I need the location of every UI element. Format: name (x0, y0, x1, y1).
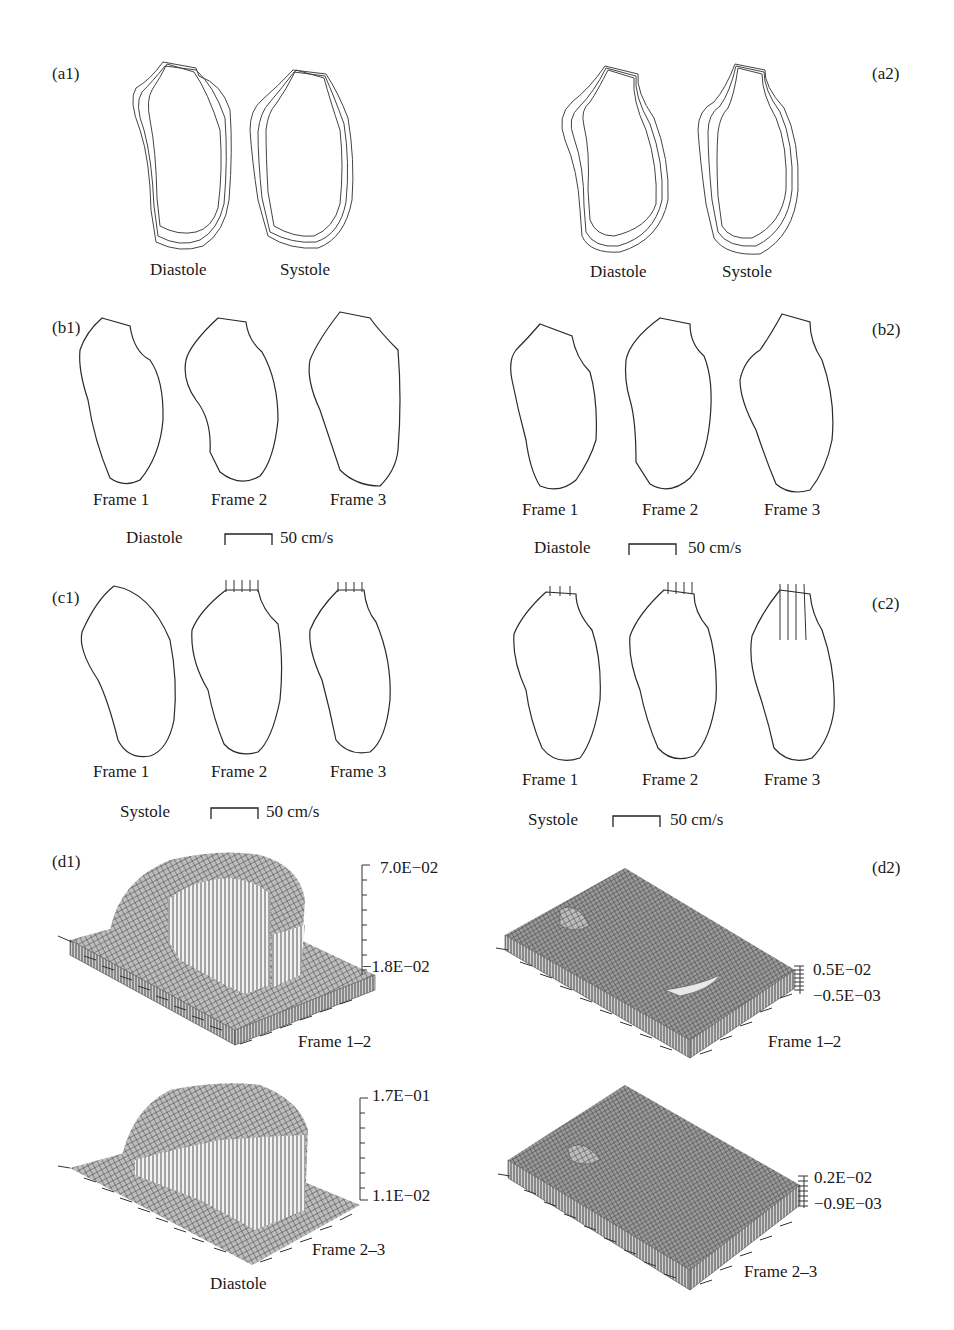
d2-bottom-zmax-label: 0.2E−02 (814, 1168, 872, 1188)
d2-bottom-frame-label: Frame 2–3 (744, 1262, 817, 1282)
d2-bottom-surface-plot (0, 0, 954, 1330)
d2-bottom-zmin-label: −0.9E−03 (814, 1194, 882, 1214)
